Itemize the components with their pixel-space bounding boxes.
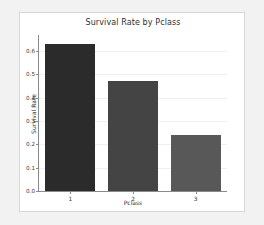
y-tick-label: 0.0: [26, 188, 35, 194]
x-axis-label: Pclass: [20, 199, 246, 206]
bar: [108, 81, 158, 191]
y-tick-mark: [36, 144, 39, 145]
y-tick-mark: [36, 168, 39, 169]
y-tick-mark: [36, 191, 39, 192]
y-tick-mark: [36, 74, 39, 75]
chart-figure: Survival Rate by Pclass Survival Rate 0.…: [19, 12, 245, 212]
y-tick-label: 0.5: [26, 71, 35, 77]
y-tick-label: 0.1: [26, 165, 35, 171]
chart-title: Survival Rate by Pclass: [20, 18, 246, 27]
x-tick-mark: [70, 191, 71, 194]
x-tick-mark: [196, 191, 197, 194]
y-tick-label: 0.6: [26, 48, 35, 54]
y-tick-label: 0.3: [26, 118, 35, 124]
screenshot-root: Survival Rate by Pclass Survival Rate 0.…: [0, 0, 264, 225]
plot-area: 0.00.10.20.30.40.50.6 123: [39, 37, 227, 191]
y-tick-label: 0.4: [26, 95, 35, 101]
y-tick-mark: [36, 98, 39, 99]
bar: [45, 44, 95, 191]
x-tick-mark: [133, 191, 134, 194]
y-tick-mark: [36, 121, 39, 122]
y-tick-mark: [36, 51, 39, 52]
bar: [171, 135, 221, 191]
y-tick-label: 0.2: [26, 141, 35, 147]
